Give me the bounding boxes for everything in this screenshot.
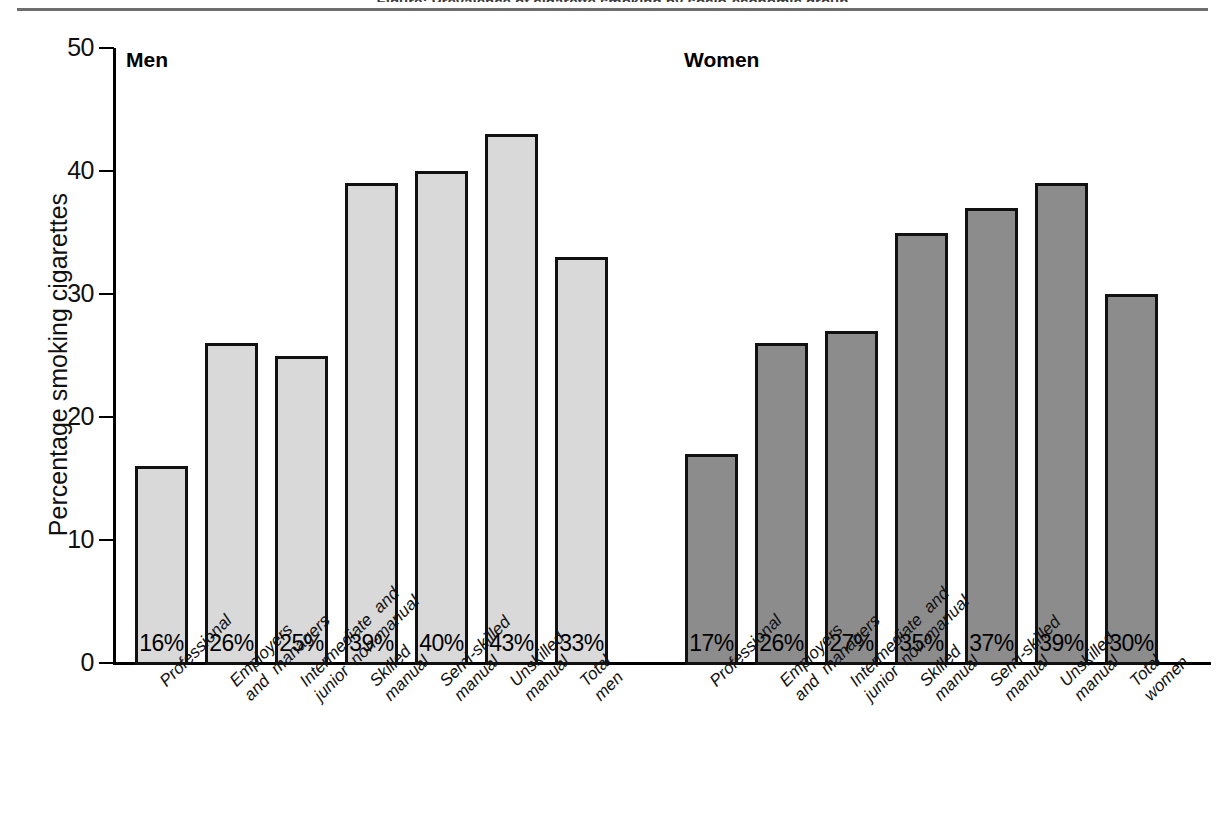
bar-women-4: 37%: [965, 208, 1018, 665]
bar-men-0: 16%: [135, 466, 188, 665]
bar-men-4: 40%: [415, 171, 468, 665]
figure-page: Figure: Prevalence of cigarette smoking …: [0, 0, 1221, 829]
bar-value-label: 17%: [688, 632, 735, 655]
bar-women-1: 26%: [755, 343, 808, 665]
bar-women-6: 30%: [1105, 294, 1158, 665]
bar-men-1: 26%: [205, 343, 258, 665]
bar-men-5: 43%: [485, 134, 538, 665]
bar-value-label: 40%: [418, 632, 465, 655]
bar-women-0: 17%: [685, 454, 738, 665]
bar-men-6: 33%: [555, 257, 608, 665]
bar-value-label: 16%: [138, 632, 185, 655]
bar-chart: Percentage smoking cigarettes 0102030405…: [0, 0, 1221, 829]
bar-women-5: 39%: [1035, 183, 1088, 665]
bars-layer: 16%26%25%39%40%43%33%17%26%27%35%37%39%3…: [0, 0, 1221, 665]
bar-value-label: 37%: [968, 632, 1015, 655]
